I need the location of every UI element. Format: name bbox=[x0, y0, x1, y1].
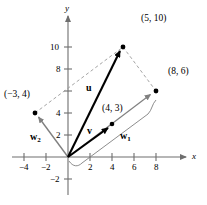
vector-label-u: u bbox=[86, 83, 92, 93]
vector-label-w1-subscript: 1 bbox=[127, 135, 131, 143]
x-tick-label-8: 8 bbox=[154, 163, 159, 172]
vector-label-w2-subscript: 2 bbox=[37, 136, 41, 144]
vector-w2-shaft bbox=[39, 117, 69, 157]
vector-label-w2: w2 bbox=[30, 132, 41, 142]
x-tick-label--2: −2 bbox=[41, 163, 51, 172]
x-tick-label--4: −4 bbox=[19, 163, 29, 172]
x-tick-label-2: 2 bbox=[88, 163, 93, 172]
point-label-4-3: (4, 3) bbox=[102, 104, 123, 114]
y-tick-label-8: 8 bbox=[56, 65, 61, 74]
y-tick-label--2: −2 bbox=[50, 175, 60, 184]
plotted-points bbox=[33, 45, 159, 127]
y-tick-label-4: 4 bbox=[56, 109, 61, 118]
y-tick-label-2: 2 bbox=[56, 131, 61, 140]
point-label-5-10: (5, 10) bbox=[141, 14, 166, 24]
dashed-line-u-to-w1 bbox=[123, 47, 156, 91]
point-w1-tip bbox=[154, 89, 159, 94]
point-label-8-6: (8, 6) bbox=[168, 67, 189, 77]
point-v-tip bbox=[110, 122, 115, 127]
x-tick-label-4: 4 bbox=[110, 163, 115, 172]
y-axis-label: y bbox=[65, 4, 69, 13]
point-u-tip bbox=[121, 45, 126, 50]
point-w2-tip bbox=[33, 111, 38, 116]
x-axis-label: x bbox=[192, 152, 196, 161]
vector-label-w1: w1 bbox=[120, 131, 131, 141]
axis-lines bbox=[12, 16, 186, 195]
x-tick-label-6: 6 bbox=[132, 163, 137, 172]
point-label--3-4: (−3, 4) bbox=[4, 90, 30, 100]
y-tick-label-10: 10 bbox=[50, 43, 59, 52]
vector-diagram: −4 −2 2 4 6 8 −2 2 4 8 10 x y (5, 10) (4… bbox=[0, 0, 207, 205]
vector-label-v: v bbox=[87, 126, 92, 136]
